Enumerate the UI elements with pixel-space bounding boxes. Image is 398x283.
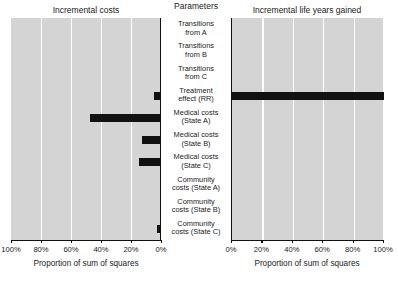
parameter-label-line: from C	[161, 73, 231, 82]
right-axis-line	[231, 240, 383, 241]
gridline	[293, 18, 294, 240]
gridline	[131, 18, 132, 240]
left-axis-title: Proportion of sum of squares	[11, 259, 161, 269]
parameter-label-line: costs (State C)	[161, 228, 231, 237]
axis-tick	[71, 240, 72, 243]
left-panel-title: Incremental costs	[11, 5, 161, 15]
axis-tick	[131, 240, 132, 243]
bar	[139, 158, 160, 166]
parameter-label: Communitycosts (State B)	[161, 198, 231, 215]
gridline	[354, 18, 355, 240]
bar	[142, 136, 160, 144]
axis-tick	[101, 240, 102, 243]
axis-tick-label: 80%	[26, 245, 56, 254]
axis-tick	[322, 240, 323, 243]
gridline	[262, 18, 263, 240]
gridline	[101, 18, 102, 240]
axis-tick	[41, 240, 42, 243]
center-column-title: Parameters	[163, 1, 229, 11]
left-plot-area	[11, 18, 161, 240]
bar	[154, 92, 160, 100]
parameter-label: Communitycosts (State C)	[161, 220, 231, 237]
axis-tick-label: 100%	[368, 245, 398, 254]
parameter-label: Transitionsfrom A	[161, 20, 231, 37]
axis-tick	[292, 240, 293, 243]
gridline	[71, 18, 72, 240]
axis-tick	[261, 240, 262, 243]
parameter-label: Transitionsfrom C	[161, 65, 231, 82]
axis-tick-label: 40%	[86, 245, 116, 254]
parameter-label: Transitionsfrom B	[161, 42, 231, 59]
parameter-label-line: from A	[161, 29, 231, 38]
axis-tick-label: 0%	[146, 245, 176, 254]
parameter-label: Communitycosts (State A)	[161, 176, 231, 193]
bar	[157, 225, 160, 233]
axis-tick	[383, 240, 384, 243]
right-plot-area	[231, 18, 383, 240]
parameter-label: Medical costs(State A)	[161, 109, 231, 126]
gridline	[41, 18, 42, 240]
tornado-diagram: Incremental costs Parameters Incremental…	[0, 0, 398, 283]
parameter-label-line: effect (RR)	[161, 95, 231, 104]
parameter-label-line: (State C)	[161, 162, 231, 171]
bar	[90, 114, 161, 122]
parameter-label: Medical costs(State C)	[161, 153, 231, 170]
axis-tick-label: 60%	[56, 245, 86, 254]
axis-tick-label: 20%	[246, 245, 276, 254]
parameter-label: Treatmenteffect (RR)	[161, 87, 231, 104]
parameter-label-line: from B	[161, 51, 231, 60]
parameter-label-line: costs (State A)	[161, 184, 231, 193]
bar	[232, 92, 384, 100]
right-axis-title: Proportion of sum of squares	[231, 259, 383, 269]
axis-tick-label: 100%	[0, 245, 26, 254]
axis-tick-label: 20%	[116, 245, 146, 254]
gridline	[323, 18, 324, 240]
axis-tick	[11, 240, 12, 243]
parameter-label-column: Transitionsfrom ATransitionsfrom BTransi…	[161, 18, 231, 240]
right-panel-title: Incremental life years gained	[231, 5, 383, 15]
parameter-label-line: (State B)	[161, 140, 231, 149]
parameter-label-line: (State A)	[161, 117, 231, 126]
parameter-label: Medical costs(State B)	[161, 131, 231, 148]
axis-tick	[161, 240, 162, 243]
parameter-label-line: costs (State B)	[161, 206, 231, 215]
left-axis-line	[11, 240, 161, 241]
axis-tick-label: 80%	[338, 245, 368, 254]
axis-tick-label: 40%	[277, 245, 307, 254]
axis-tick	[231, 240, 232, 243]
axis-tick	[353, 240, 354, 243]
axis-tick-label: 0%	[216, 245, 246, 254]
axis-tick-label: 60%	[307, 245, 337, 254]
